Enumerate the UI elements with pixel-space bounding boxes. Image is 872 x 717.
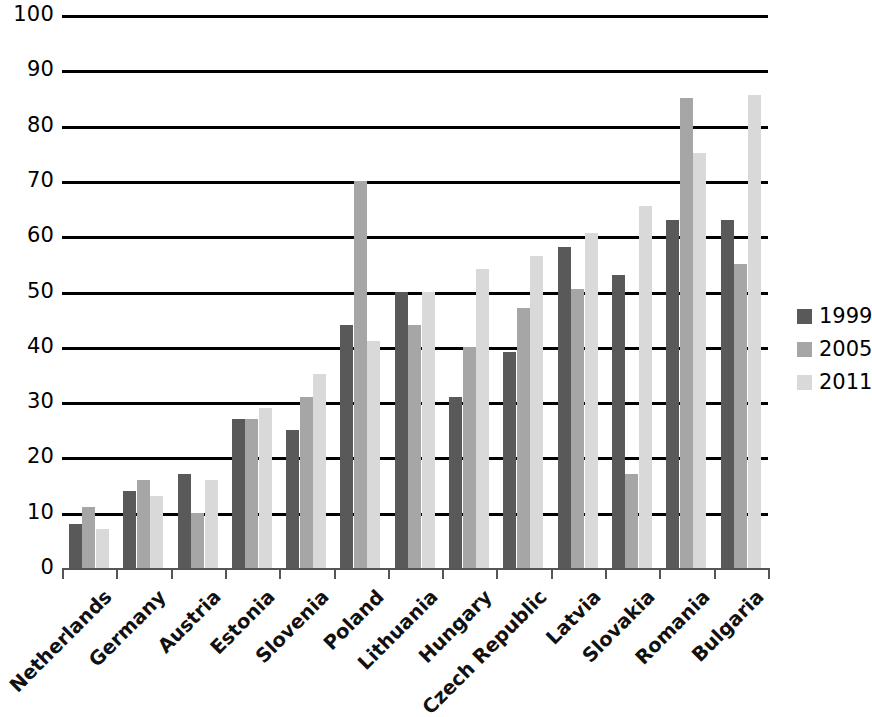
bar-1999[interactable] xyxy=(178,474,191,568)
legend-label: 1999 xyxy=(819,306,872,327)
bar-2005[interactable] xyxy=(463,347,476,568)
bar-2005[interactable] xyxy=(625,474,638,568)
bars-layer xyxy=(62,15,768,568)
bar-group xyxy=(503,15,544,568)
y-tick-label: 90 xyxy=(0,59,54,80)
x-axis-tick xyxy=(605,568,607,579)
x-axis-tick xyxy=(334,568,336,579)
bar-1999[interactable] xyxy=(286,430,299,568)
legend-label: 2011 xyxy=(819,372,872,393)
bar-1999[interactable] xyxy=(340,325,353,568)
legend-label: 2005 xyxy=(819,339,872,360)
y-tick-label: 70 xyxy=(0,170,54,191)
bar-group xyxy=(449,15,490,568)
bar-group xyxy=(612,15,653,568)
bar-1999[interactable] xyxy=(69,524,82,568)
bar-2011[interactable] xyxy=(205,480,218,568)
bar-2011[interactable] xyxy=(259,408,272,568)
bar-2011[interactable] xyxy=(639,206,652,568)
bar-1999[interactable] xyxy=(666,220,679,568)
bar-2005[interactable] xyxy=(191,513,204,568)
x-axis-tick xyxy=(225,568,227,579)
bar-2011[interactable] xyxy=(150,496,163,568)
bar-2005[interactable] xyxy=(517,308,530,568)
bar-1999[interactable] xyxy=(721,220,734,568)
y-tick-label: 0 xyxy=(0,557,54,578)
bar-1999[interactable] xyxy=(612,275,625,568)
x-axis-tick xyxy=(659,568,661,579)
x-axis-tick xyxy=(551,568,553,579)
x-axis-line xyxy=(62,568,770,570)
bar-1999[interactable] xyxy=(123,491,136,568)
x-axis xyxy=(62,568,770,580)
bar-1999[interactable] xyxy=(449,397,462,568)
bar-1999[interactable] xyxy=(558,247,571,568)
bar-group xyxy=(558,15,599,568)
legend-swatch-icon xyxy=(797,375,812,390)
x-axis-tick xyxy=(62,568,64,579)
bar-group xyxy=(666,15,707,568)
x-axis-tick xyxy=(768,568,770,579)
bar-2005[interactable] xyxy=(734,264,747,568)
bar-group xyxy=(286,15,327,568)
bar-group xyxy=(721,15,762,568)
legend-swatch-icon xyxy=(797,342,812,357)
x-axis-tick xyxy=(496,568,498,579)
bar-group xyxy=(123,15,164,568)
legend-swatch-icon xyxy=(797,309,812,324)
legend-item[interactable]: 2011 xyxy=(797,366,867,399)
bar-2011[interactable] xyxy=(476,269,489,568)
y-tick-label: 40 xyxy=(0,336,54,357)
y-tick-label: 20 xyxy=(0,446,54,467)
plot-area xyxy=(62,15,768,568)
legend-item[interactable]: 2005 xyxy=(797,333,867,366)
bar-2005[interactable] xyxy=(82,507,95,568)
bar-group xyxy=(232,15,273,568)
bar-2005[interactable] xyxy=(680,98,693,568)
bar-2005[interactable] xyxy=(245,419,258,568)
bar-2011[interactable] xyxy=(693,153,706,568)
y-tick-label: 80 xyxy=(0,115,54,136)
x-axis-tick xyxy=(116,568,118,579)
bar-2005[interactable] xyxy=(408,325,421,568)
bar-2005[interactable] xyxy=(354,181,367,568)
legend-item[interactable]: 1999 xyxy=(797,300,867,333)
bar-1999[interactable] xyxy=(503,352,516,568)
y-tick-label: 50 xyxy=(0,281,54,302)
bar-2011[interactable] xyxy=(367,341,380,568)
bar-group xyxy=(395,15,436,568)
legend: 199920052011 xyxy=(797,300,867,399)
bar-1999[interactable] xyxy=(232,419,245,568)
bar-2011[interactable] xyxy=(585,233,598,568)
bar-2011[interactable] xyxy=(422,292,435,569)
y-tick-label: 30 xyxy=(0,391,54,412)
bar-2011[interactable] xyxy=(313,374,326,568)
bar-2011[interactable] xyxy=(748,95,761,568)
y-tick-label: 10 xyxy=(0,502,54,523)
y-tick-label: 100 xyxy=(0,4,54,25)
bar-group xyxy=(69,15,110,568)
x-axis-tick xyxy=(442,568,444,579)
bar-2011[interactable] xyxy=(96,529,109,568)
bar-2011[interactable] xyxy=(530,256,543,568)
x-axis-category-labels: NetherlandsGermanyAustriaEstoniaSlovenia… xyxy=(0,580,867,700)
x-axis-tick xyxy=(714,568,716,579)
x-axis-tick xyxy=(279,568,281,579)
bar-2005[interactable] xyxy=(571,289,584,568)
x-axis-tick xyxy=(388,568,390,579)
bar-2005[interactable] xyxy=(137,480,150,568)
bar-2005[interactable] xyxy=(300,397,313,568)
bar-group xyxy=(178,15,219,568)
bar-1999[interactable] xyxy=(395,292,408,569)
y-tick-label: 60 xyxy=(0,225,54,246)
bar-group xyxy=(340,15,381,568)
x-axis-tick xyxy=(171,568,173,579)
